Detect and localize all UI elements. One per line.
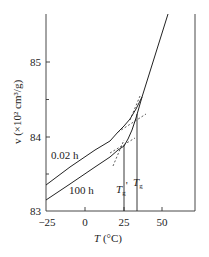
x-ticks xyxy=(85,207,162,211)
x-axis-label: T (°C) xyxy=(94,232,122,245)
x-tick-50: 50 xyxy=(157,216,169,228)
y-tick-85: 85 xyxy=(30,56,42,68)
label-tg: Tg xyxy=(133,176,143,190)
chart: 83 84 85 −25 0 25 50 T (°C) v (×10² cm³/… xyxy=(0,0,209,257)
label-tg-prime: Tg' xyxy=(116,179,128,197)
tangent-lines xyxy=(110,96,146,166)
x-tick-25: 25 xyxy=(119,216,131,228)
y-tick-84: 84 xyxy=(30,131,42,143)
y-axis-label: v (×10² cm³/g) xyxy=(11,80,24,144)
x-tick-minus25: −25 xyxy=(38,216,56,228)
x-tick-0: 0 xyxy=(82,216,88,228)
label-0.02h: 0.02 h xyxy=(51,149,79,161)
label-100h: 100 h xyxy=(69,184,94,196)
y-ticks xyxy=(46,62,50,174)
